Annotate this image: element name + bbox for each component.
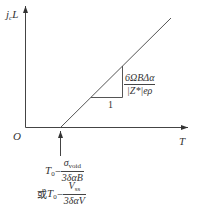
y-axis-label-tail: L xyxy=(12,8,18,20)
slope-numerator: 6ΩBΔα xyxy=(124,73,155,83)
slope-run-label: 1 xyxy=(108,100,113,110)
y-axis-label: jcL xyxy=(6,9,18,22)
intercept-formula-1: T0− σvoid 3δαB xyxy=(45,158,84,183)
slope-fraction: 6ΩBΔα |Z*|eρ xyxy=(124,73,155,96)
origin-label: O xyxy=(13,131,21,142)
intercept-2-denominator: 3δαV xyxy=(63,196,86,204)
intercept-1-prefix: T0 xyxy=(45,164,55,178)
diagram-canvas xyxy=(0,0,201,204)
intercept-formula-2: 或 T0− Vss 3δαV xyxy=(37,181,86,204)
or-connector: 或 xyxy=(37,186,47,201)
intercept-2-prefix: T0 xyxy=(47,187,57,201)
x-axis-label: T xyxy=(179,136,185,147)
slope-denominator: |Z*|eρ xyxy=(126,86,153,96)
intercept-2-fraction: Vss 3δαV xyxy=(63,181,86,204)
